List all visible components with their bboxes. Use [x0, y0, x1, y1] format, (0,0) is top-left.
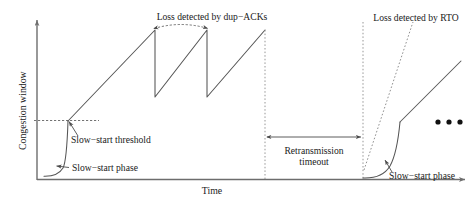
axes-group [37, 20, 465, 180]
slow-start-phase-1-label: Slow−start phase [72, 162, 138, 173]
slow-start-phase-2-label: Slow−start phase [389, 170, 455, 181]
rto-projection-line [364, 22, 413, 170]
continuation-dot-2 [446, 119, 451, 124]
retransmission-timeout-line2: timeout [299, 156, 329, 167]
x-axis-label: Time [202, 185, 223, 196]
slow-start-threshold-label: Slow−start threshold [71, 134, 151, 145]
y-axis-label: Congestion window [17, 70, 28, 150]
loss-dup-acks-label: Loss detected by dup−ACKs [157, 11, 268, 22]
continuation-dot-3 [457, 119, 462, 124]
retransmission-timeout-line1: Retransmission [284, 145, 343, 156]
congestion-window-diagram: Congestion window Time Loss detected by … [0, 0, 474, 201]
continuation-dots [435, 119, 462, 124]
slow-start-curve-1 [44, 121, 68, 176]
slow-start-phase-1-leader [57, 166, 70, 168]
congestion-avoidance-sawtooth [68, 30, 265, 121]
congestion-avoidance-ramp-4 [400, 61, 461, 122]
loss-dup-acks-arrow [154, 25, 208, 29]
tcp-congestion-window-figure: Congestion window Time Loss detected by … [0, 0, 474, 201]
continuation-dot-1 [435, 119, 440, 124]
loss-rto-label: Loss detected by RTO [373, 12, 458, 23]
